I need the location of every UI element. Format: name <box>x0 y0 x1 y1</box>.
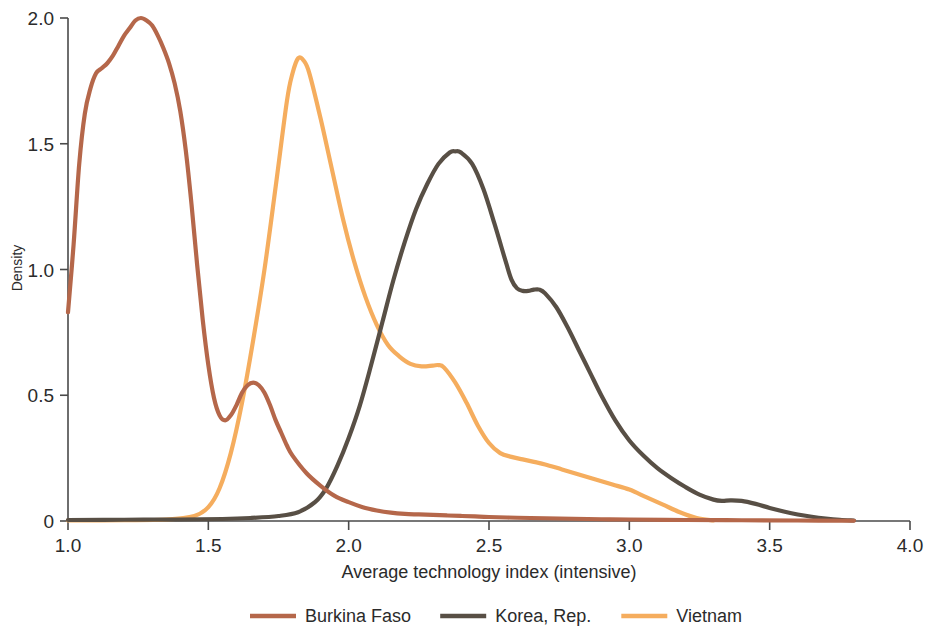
x-tick-label: 3.0 <box>616 535 642 556</box>
chart-canvas: 00.51.01.52.0 1.01.52.02.53.03.54.0 Aver… <box>0 0 927 630</box>
x-tick-label: 1.0 <box>55 535 81 556</box>
x-tick-label: 1.5 <box>195 535 221 556</box>
x-tick-label: 3.5 <box>756 535 782 556</box>
series-line-burkina-faso <box>68 18 854 521</box>
x-axis-ticks: 1.01.52.02.53.03.54.0 <box>55 521 923 556</box>
legend-label-burkina-faso[interactable]: Burkina Faso <box>305 606 411 626</box>
y-axis-ticks: 00.51.01.52.0 <box>28 8 68 532</box>
x-tick-label: 4.0 <box>897 535 923 556</box>
x-axis-title: Average technology index (intensive) <box>342 562 637 582</box>
chart-legend: Burkina FasoKorea, Rep.Vietnam <box>250 606 742 626</box>
legend-label-korea-rep[interactable]: Korea, Rep. <box>495 606 591 626</box>
x-tick-label: 2.0 <box>335 535 361 556</box>
y-tick-label: 1.5 <box>28 134 54 155</box>
y-tick-label: 0.5 <box>28 385 54 406</box>
series-line-korea-rep <box>68 151 854 520</box>
y-tick-label: 1.0 <box>28 260 54 281</box>
series-lines <box>68 18 854 521</box>
density-plot-figure: 00.51.01.52.0 1.01.52.02.53.03.54.0 Aver… <box>0 0 927 630</box>
y-tick-label: 0 <box>43 511 54 532</box>
x-tick-label: 2.5 <box>476 535 502 556</box>
y-axis-title: Density <box>9 245 25 292</box>
legend-label-vietnam[interactable]: Vietnam <box>676 606 742 626</box>
y-tick-label: 2.0 <box>28 8 54 29</box>
